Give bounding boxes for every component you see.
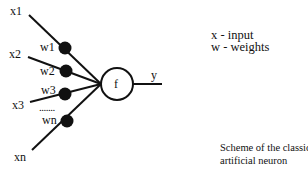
weight-label-w2: w2 [40,65,55,77]
caption-line-1: Scheme of the classic [220,142,308,155]
weight-dot-w3 [59,88,72,101]
weight-label-wn: wn [42,114,57,126]
inputs-ellipsis: ....... [39,101,55,113]
caption-line-2: artificial neuron [220,155,308,168]
weight-label-w3: w3 [41,84,56,96]
input-label-x2: x2 [9,48,21,60]
output-label-y: y [151,69,157,81]
legend: x - input w - weights [211,29,269,53]
input-label-xn: xn [14,151,26,163]
input-label-x3: x3 [12,99,24,111]
neuron-function-label: f [114,78,118,90]
input-label-x1: x1 [10,5,22,17]
weight-dot-w1 [59,42,72,55]
diagram-caption: Scheme of the classic artificial neuron [220,142,308,167]
weight-dot-wn [61,115,74,128]
weight-label-w1: w1 [40,41,55,53]
weight-dot-w2 [60,65,73,78]
legend-weights: w - weights [211,41,269,53]
